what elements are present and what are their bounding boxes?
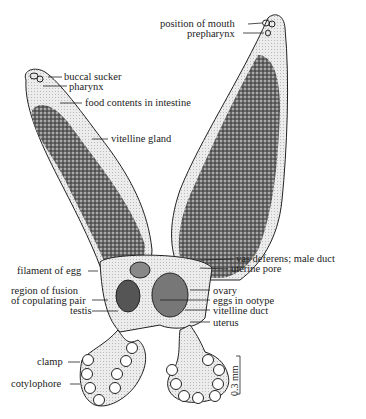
label-testis: testis	[70, 305, 92, 316]
right-haptor	[167, 325, 229, 404]
left-haptor	[80, 330, 145, 406]
label-pharynx: pharynx	[69, 81, 103, 92]
diagram-figure: position of mouth prepharynx buccal suck…	[0, 0, 366, 419]
label-cotylophore: cotylophore	[11, 378, 61, 389]
label-vitelline-duct: vitelline duct	[213, 305, 268, 316]
label-uterine-pore: uterine pore	[231, 263, 281, 274]
label-clamp: clamp	[37, 356, 63, 367]
label-prepharynx: prepharynx	[187, 28, 235, 39]
label-food-contents: food contents in intestine	[85, 97, 191, 108]
scale-bar-label: 0.3 mm	[229, 365, 240, 396]
label-filament-of-egg: filament of egg	[17, 265, 81, 276]
right-individual	[172, 15, 288, 280]
label-vitelline-gland: vitelline gland	[111, 133, 171, 144]
label-uterus: uterus	[213, 317, 239, 328]
fusion-region	[100, 255, 212, 332]
